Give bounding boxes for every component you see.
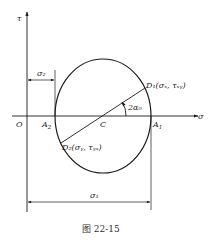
angle-label: 2α₀ bbox=[127, 103, 142, 112]
point-a2-label: A2 bbox=[41, 120, 52, 130]
mohr-circle-diagram: τ σ O A2 C A1 D₁(σₓ, τₓᵧ) D₂(σᵧ, τᵧₓ) 2α… bbox=[0, 0, 209, 240]
point-d1-label: D₁(σₓ, τₓᵧ) bbox=[145, 81, 186, 90]
sigma1-label: σ₁ bbox=[90, 191, 99, 200]
figure-caption: 图 22-15 bbox=[82, 224, 120, 234]
point-d2-label: D₂(σᵧ, τᵧₓ) bbox=[61, 143, 102, 152]
sigma2-label: σ₂ bbox=[37, 69, 46, 78]
tau-axis-label: τ bbox=[17, 14, 22, 23]
origin-label: O bbox=[16, 120, 23, 129]
sigma-axis-label: σ bbox=[198, 112, 204, 121]
angle-arc bbox=[122, 102, 126, 116]
point-c-label: C bbox=[100, 120, 106, 129]
diameter-d1-d2 bbox=[61, 88, 145, 143]
point-a1-label: A1 bbox=[152, 120, 162, 130]
